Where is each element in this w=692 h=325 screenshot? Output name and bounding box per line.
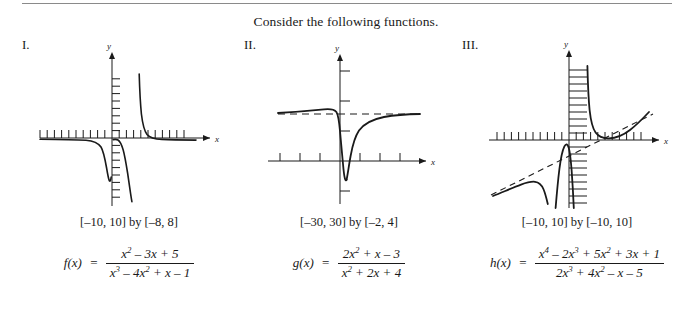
term: – x – 5 [605, 265, 643, 280]
x-axis-label-2: x [430, 157, 435, 167]
formula-3-equals: = [519, 255, 526, 271]
term: + 2x + 4 [352, 265, 401, 280]
window-label-1: [–10, 10] by [–8, 8] [22, 215, 236, 230]
item-numeral-1: I. [22, 38, 30, 51]
y-axis-arrow-3 [566, 50, 572, 57]
graph-3-wrapper: x y [462, 36, 692, 211]
y-axis-arrow-1 [109, 52, 115, 59]
term: + 4x [573, 265, 601, 280]
term: + 5x [579, 246, 607, 261]
page-title: Consider the following functions. [0, 14, 692, 30]
formula-1-fraction: x2 – 3x + 5 x3 – 4x2 + x – 1 [106, 246, 194, 281]
graph-2-branch-right [347, 114, 420, 180]
formula-1-numerator: x2 – 3x + 5 [106, 246, 194, 264]
top-divider [22, 3, 672, 4]
formula-2-fraction: 2x2 + x – 3 x2 + 2x + 4 [338, 246, 406, 281]
x-axis-label-3: x [663, 136, 668, 146]
formula-1-denominator: x3 – 4x2 + x – 1 [106, 264, 194, 281]
item-numeral-2: II. [244, 38, 256, 51]
term: 2x [343, 246, 355, 261]
formula-1-name: f(x) [64, 255, 82, 270]
term: – 4x [120, 265, 145, 280]
term: + x – 1 [150, 265, 191, 280]
y-axis-label-3: y [563, 39, 568, 49]
graph-1-branch-middle [113, 139, 132, 201]
graph-2-wrapper: x y [244, 36, 454, 211]
formula-2-denominator: x2 + 2x + 4 [338, 264, 406, 281]
formula-1-equals: = [90, 255, 97, 271]
x-axis-arrow-3 [652, 137, 659, 143]
graph-3-branch-right [587, 66, 649, 138]
x-axis-arrow-2 [419, 158, 426, 164]
graph-1-wrapper: x y [22, 36, 236, 211]
y-axis-label-1: y [106, 41, 111, 51]
x-axis-label-1: x [214, 134, 219, 144]
graph-3-branch-lower-left [493, 182, 548, 204]
graph-2-branch-left [278, 109, 347, 180]
function-item-1: I. x y [0, 36, 236, 282]
formula-2: g(x) = 2x2 + x – 3 x2 + 2x + 4 [244, 247, 454, 282]
term: – 3x + 5 [132, 246, 179, 261]
formula-2-name: g(x) [293, 255, 314, 270]
function-item-2: II. x y [236, 36, 454, 282]
graph-1: x y [34, 36, 224, 211]
formula-2-equals: = [322, 255, 329, 271]
formula-1: f(x) = x2 – 3x + 5 x3 – 4x2 + x – 1 [22, 247, 236, 282]
x-axis-arrow-1 [203, 135, 210, 141]
term: + 3x + 1 [611, 246, 660, 261]
graph-2: x y [258, 36, 440, 211]
functions-row: I. x y [0, 36, 692, 282]
formula-3-fraction: x4 – 2x3 + 5x2 + 3x + 1 2x3 + 4x2 – x – … [535, 246, 664, 281]
item-numeral-3: III. [462, 38, 478, 51]
formula-3-numerator: x4 – 2x3 + 5x2 + 3x + 1 [535, 246, 664, 264]
window-label-3: [–10, 10] by [–10, 10] [462, 215, 692, 230]
formula-3-name: h(x) [490, 255, 511, 270]
formula-2-numerator: 2x2 + x – 3 [338, 246, 406, 264]
term: – 2x [549, 246, 574, 261]
formula-3-denominator: 2x3 + 4x2 – x – 5 [535, 264, 664, 281]
y-axis-label-2: y [334, 43, 339, 53]
term: 2x [556, 265, 568, 280]
term: + x – 3 [359, 246, 400, 261]
y-axis-arrow-2 [337, 54, 343, 61]
formula-3: h(x) = x4 – 2x3 + 5x2 + 3x + 1 2x3 + 4x2… [462, 247, 692, 282]
graph-1-branch-left [40, 139, 111, 181]
window-label-2: [–30, 30] by [–2, 4] [244, 215, 454, 230]
graph-3: x y [477, 36, 677, 211]
function-item-3: III. x y [454, 36, 692, 282]
